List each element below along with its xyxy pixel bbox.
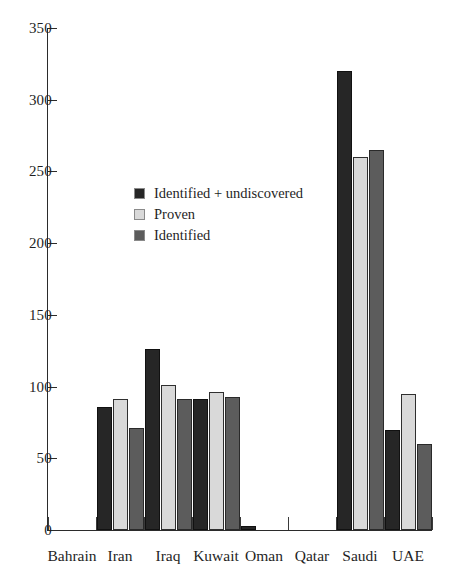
legend-swatch-icon — [134, 188, 145, 199]
legend-label: Proven — [154, 207, 195, 222]
legend-item: Proven — [134, 205, 303, 224]
bar — [97, 407, 112, 530]
bar — [225, 397, 240, 530]
legend-item: Identified + undiscovered — [134, 184, 303, 203]
x-axis-line — [47, 530, 432, 531]
bar — [337, 71, 352, 530]
bar — [209, 392, 224, 530]
bar — [401, 394, 416, 530]
bar — [385, 430, 400, 530]
bar-group — [289, 28, 336, 530]
legend-item: Identified — [134, 226, 303, 245]
legend-swatch-icon — [134, 209, 145, 220]
legend-label: Identified — [154, 228, 210, 243]
bar — [145, 349, 160, 530]
bar — [417, 444, 432, 530]
bar-group — [241, 28, 288, 530]
y-axis-tick-label: 100 — [6, 380, 52, 395]
bar-group — [385, 28, 432, 530]
y-axis-tick-label: 350 — [6, 21, 52, 36]
plot-area — [48, 28, 432, 530]
y-axis-tick-label: 200 — [6, 236, 52, 251]
bar — [161, 385, 176, 530]
x-axis-tick — [432, 517, 433, 530]
bar-group — [193, 28, 240, 530]
y-axis-tick-label: 50 — [6, 451, 52, 466]
bar — [177, 399, 192, 530]
y-axis-tick-label: 150 — [6, 308, 52, 323]
bar — [369, 150, 384, 530]
bar-group — [49, 28, 96, 530]
y-axis-tick-label: 300 — [6, 93, 52, 108]
legend-label: Identified + undiscovered — [154, 186, 303, 201]
bar — [193, 399, 208, 530]
bar-group — [145, 28, 192, 530]
bar-chart: 050100150200250300350 BahrainIranIraqKuw… — [0, 0, 450, 580]
y-axis-tick-label: 250 — [6, 164, 52, 179]
bar — [241, 526, 256, 530]
legend-swatch-icon — [134, 230, 145, 241]
x-axis-category-label: UAE — [374, 548, 442, 564]
bar-group — [97, 28, 144, 530]
bar-group — [337, 28, 384, 530]
bar — [353, 157, 368, 530]
chart-legend: Identified + undiscoveredProvenIdentifie… — [134, 184, 303, 247]
bar — [113, 399, 128, 530]
bar — [129, 428, 144, 530]
y-axis-tick-label: 0 — [6, 523, 52, 538]
